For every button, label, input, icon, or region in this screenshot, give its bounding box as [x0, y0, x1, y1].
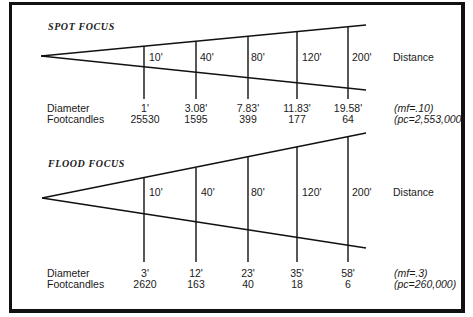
spot-distance-120: 120' [302, 51, 322, 63]
spot-footcandles-10: 25530 [120, 113, 170, 125]
flood-distance-120: 120' [302, 186, 322, 198]
spot-distance-label: Distance [393, 51, 434, 63]
flood-footcandles-80: 40 [223, 278, 273, 290]
spot-distance-80: 80' [251, 51, 265, 63]
spot-footcandles-label: Footcandles [47, 113, 104, 125]
spot-footcandles-120: 177 [272, 113, 322, 125]
spot-footcandles-200: 64 [323, 113, 373, 125]
flood-distance-200: 200' [352, 186, 372, 198]
flood-distance-80: 80' [251, 186, 265, 198]
flood-footcandles-200: 6 [323, 278, 373, 290]
spot-distance-200: 200' [352, 51, 372, 63]
spot-distance-40: 40' [200, 51, 214, 63]
spot-focus-title: SPOT FOCUS [48, 21, 115, 33]
spot-footcandles-80: 399 [223, 113, 273, 125]
flood-beam-bottom-edge [42, 198, 366, 248]
flood-peak-candela: (pc=260,000) [394, 278, 456, 290]
flood-distance-40: 40' [201, 186, 215, 198]
flood-focus-title: FLOOD FOCUS [48, 158, 125, 170]
spot-peak-candela: (pc=2,553,000) [394, 113, 465, 125]
flood-distance-label: Distance [393, 186, 434, 198]
spot-footcandles-40: 1595 [171, 113, 221, 125]
flood-footcandles-120: 18 [272, 278, 322, 290]
flood-footcandles-40: 163 [171, 278, 221, 290]
flood-footcandles-10: 2620 [120, 278, 170, 290]
flood-footcandles-label: Footcandles [47, 278, 104, 290]
flood-distance-10: 10' [149, 186, 163, 198]
spot-distance-10: 10' [149, 51, 163, 63]
